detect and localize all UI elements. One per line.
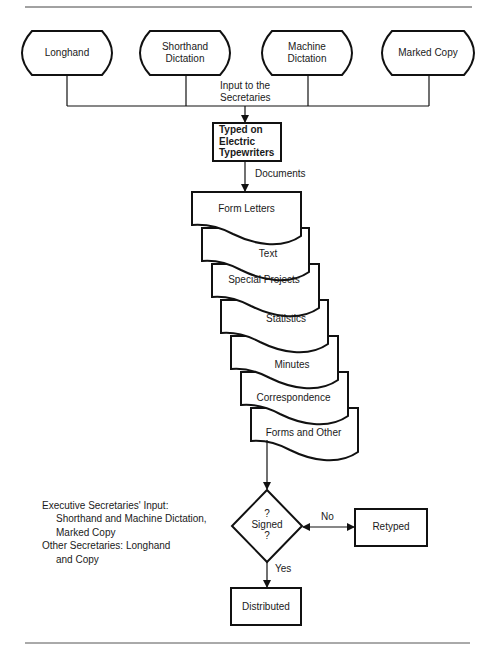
doc-statistics-label: Statistics bbox=[248, 313, 324, 325]
distributed-label: Distributed bbox=[231, 601, 301, 613]
input-marked-copy-label: Marked Copy bbox=[382, 47, 474, 59]
notes-line2: Shorthand and Machine Dictation, bbox=[42, 512, 207, 525]
input-shorthand-label: Shorthand Dictation bbox=[140, 41, 230, 65]
decision-line1: ? bbox=[237, 508, 297, 519]
yes-label: Yes bbox=[275, 563, 291, 575]
typed-line2: Electric bbox=[219, 136, 274, 148]
typed-process-label: Typed on Electric Typewriters bbox=[219, 124, 274, 159]
doc-text-label: Text bbox=[238, 248, 298, 260]
notes-line4: Other Secretaries: Longhand bbox=[42, 539, 207, 552]
input-longhand-label: Longhand bbox=[22, 47, 112, 59]
merge-label: Input to the Secretaries bbox=[220, 80, 271, 104]
notes-block: Executive Secretaries' Input: Shorthand … bbox=[42, 499, 207, 566]
documents-label: Documents bbox=[255, 168, 306, 180]
doc-correspondence-label: Correspondence bbox=[241, 392, 346, 404]
notes-line3: Marked Copy bbox=[42, 526, 207, 539]
merge-label-line1: Input to the bbox=[220, 80, 271, 92]
input-machine-line1: Machine bbox=[262, 41, 352, 53]
doc-special-projects-label: Special Projects bbox=[212, 274, 316, 286]
decision-line3: ? bbox=[237, 530, 297, 541]
input-shorthand-line1: Shorthand bbox=[140, 41, 230, 53]
typed-line3: Typewriters bbox=[219, 147, 274, 159]
input-shorthand-line2: Dictation bbox=[140, 53, 230, 65]
notes-line1: Executive Secretaries' Input: bbox=[42, 499, 207, 512]
doc-form-letters-label: Form Letters bbox=[192, 203, 301, 215]
notes-line5: and Copy bbox=[42, 553, 207, 566]
input-machine-line2: Dictation bbox=[262, 53, 352, 65]
typed-line1: Typed on bbox=[219, 124, 274, 136]
retyped-label: Retyped bbox=[355, 521, 427, 533]
doc-minutes-label: Minutes bbox=[254, 359, 330, 371]
no-label: No bbox=[321, 511, 334, 523]
doc-forms-and-other-label: Forms and Other bbox=[251, 427, 356, 439]
decision-line2: Signed bbox=[237, 519, 297, 530]
input-machine-label: Machine Dictation bbox=[262, 41, 352, 65]
merge-label-line2: Secretaries bbox=[220, 92, 271, 104]
decision-label: ? Signed ? bbox=[237, 508, 297, 541]
